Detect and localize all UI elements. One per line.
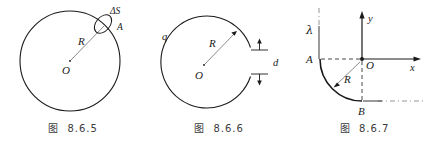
label-lambda: λ [305, 23, 313, 37]
figure-865-canvas: O R ΔS A [0, 0, 146, 120]
radius-line [70, 26, 104, 61]
label-center-o: O [195, 69, 203, 81]
label-point-a: A [305, 53, 313, 65]
caption-number-865: 8.6.5 [67, 123, 97, 134]
label-axis-y: y [367, 13, 373, 24]
radius-arrowhead [231, 31, 237, 36]
label-delta-s: ΔS [109, 6, 121, 16]
label-center-o: O [62, 64, 70, 76]
origin-dot [360, 57, 364, 61]
label-point-b: B [358, 105, 365, 117]
caption-label-866: 图 [194, 123, 204, 134]
label-radius-r: R [208, 37, 216, 49]
center-dot [69, 60, 71, 62]
caption-label-865: 图 [48, 123, 58, 134]
label-charge-q: q [162, 31, 167, 42]
label-gap-d: d [273, 57, 279, 68]
gap-upper-arrowhead [257, 39, 262, 44]
gap-lower-arrowhead [257, 81, 262, 86]
label-point-a: A [116, 22, 123, 32]
caption-866: 图8.6.6 [146, 120, 292, 135]
label-axis-x: x [409, 62, 415, 73]
figure-867-canvas: λ A B O R x y [292, 0, 437, 120]
figure-panel-866: q R O d 图8.6.6 [146, 0, 292, 148]
figure-panel-867: λ A B O R x y 图8.6.7 [292, 0, 437, 148]
radius-arrowhead [334, 83, 341, 88]
ring-arc-with-gap [161, 16, 251, 108]
figure-sheet: O R ΔS A 图8.6.5 q R O [0, 0, 437, 148]
figure-panel-865: O R ΔS A 图8.6.5 [0, 0, 146, 148]
center-dot [203, 64, 205, 66]
y-axis-arrowhead [359, 11, 364, 19]
label-radius-r: R [77, 35, 85, 47]
figure-866-canvas: q R O d [146, 0, 292, 120]
caption-label-867: 图 [340, 123, 350, 134]
label-origin-o: O [366, 59, 374, 71]
label-radius-r: R [343, 73, 351, 85]
caption-number-867: 8.6.7 [359, 123, 389, 134]
caption-865: 图8.6.5 [0, 120, 146, 135]
caption-867: 图8.6.7 [292, 120, 437, 135]
x-axis-arrowhead [414, 56, 422, 61]
caption-number-866: 8.6.6 [213, 123, 243, 134]
